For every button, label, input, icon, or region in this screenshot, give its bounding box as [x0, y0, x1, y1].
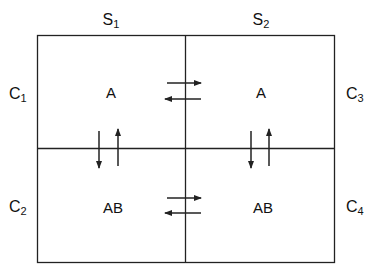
cell-label-bottom-left: AB: [103, 199, 123, 216]
row-label-c2: C2: [9, 198, 27, 217]
equilibrium-diagram: S1 S2 C1 C2 C3 C4 A A AB AB: [0, 0, 373, 268]
cell-label-bottom-right: AB: [253, 199, 273, 216]
equilibrium-arrows-bottom-horizontal-icon: [165, 198, 201, 213]
row-label-c4: C4: [346, 198, 364, 217]
column-label-s1: S1: [103, 11, 120, 30]
equilibrium-arrows-top-horizontal-icon: [165, 83, 201, 99]
row-label-c3: C3: [346, 85, 364, 104]
cell-label-top-left: A: [106, 84, 116, 101]
row-label-c1: C1: [9, 85, 27, 104]
cell-label-top-right: A: [256, 84, 266, 101]
column-label-s2: S2: [253, 11, 270, 30]
